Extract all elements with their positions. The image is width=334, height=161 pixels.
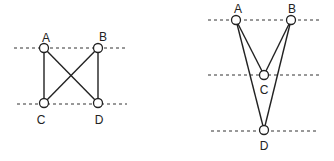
edge-b-c [264,20,291,75]
node-label-b: B [288,2,296,16]
node-label-b: B [99,30,107,44]
node-a [232,16,241,25]
node-c [260,71,269,80]
edge-a-c [236,20,264,75]
node-label-d: D [260,139,269,153]
node-b [287,16,296,25]
node-d [94,99,103,108]
node-d [260,126,269,135]
node-label-a: A [42,31,50,45]
right-diagram: ABCD [208,2,320,153]
node-label-a: A [234,2,242,16]
node-c [40,99,49,108]
node-label-c: C [37,113,46,127]
left-diagram: ABCD [14,30,128,127]
node-b [94,44,103,53]
node-label-d: D [95,113,104,127]
diagram-canvas: ABCD ABCD [0,0,334,161]
node-label-c: C [260,83,269,97]
